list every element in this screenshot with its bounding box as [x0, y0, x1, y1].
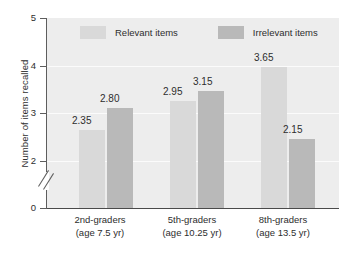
legend-item-relevant: Relevant items	[80, 26, 178, 39]
y-tick-label-5: 5	[20, 12, 36, 23]
y-tick-label-2: 2	[20, 155, 36, 166]
category-line2: (age 10.25 yr)	[147, 227, 237, 240]
gridline-4	[47, 66, 339, 67]
axis-break-marker	[38, 168, 56, 194]
value-label-2nd-irrelevant: 2.80	[100, 93, 119, 104]
value-label-2nd-relevant: 2.35	[72, 115, 91, 126]
y-tick-3	[40, 113, 47, 114]
x-axis-line	[46, 208, 339, 209]
value-label-5th-irrelevant: 3.15	[193, 76, 212, 87]
category-line2: (age 13.5 yr)	[239, 227, 327, 240]
y-tick-label-0: 0	[20, 202, 36, 213]
legend-swatch-relevant-icon	[80, 26, 106, 39]
legend-swatch-irrelevant-icon	[218, 26, 244, 39]
bar-2nd-graders-relevant	[79, 130, 105, 209]
legend: Relevant items Irrelevant items	[80, 26, 318, 39]
category-label-8th-graders: 8th-graders (age 13.5 yr)	[239, 214, 327, 239]
y-tick-5	[40, 18, 47, 19]
plot-area: 2.35 2.80 2.95 3.15 3.65 2.15	[47, 18, 339, 208]
bar-5th-graders-relevant	[170, 101, 196, 209]
value-label-5th-relevant: 2.95	[163, 86, 182, 97]
bar-2nd-graders-irrelevant	[107, 108, 133, 209]
bar-chart-figure: Number of items recalled 2.35 2.80 2.95 …	[0, 0, 347, 256]
y-tick-2	[40, 161, 47, 162]
category-line1: 8th-graders	[259, 214, 308, 225]
category-line1: 5th-graders	[168, 214, 217, 225]
category-label-2nd-graders: 2nd-graders (age 7.5 yr)	[57, 214, 143, 239]
y-tick-0	[40, 208, 47, 209]
value-label-8th-relevant: 3.65	[254, 52, 273, 63]
value-label-8th-irrelevant: 2.15	[283, 124, 302, 135]
category-label-5th-graders: 5th-graders (age 10.25 yr)	[147, 214, 237, 239]
category-line1: 2nd-graders	[74, 214, 125, 225]
legend-item-irrelevant: Irrelevant items	[218, 26, 318, 39]
legend-label-relevant: Relevant items	[115, 27, 178, 38]
bar-5th-graders-irrelevant	[198, 91, 224, 208]
category-line2: (age 7.5 yr)	[57, 227, 143, 240]
y-tick-label-3: 3	[20, 107, 36, 118]
y-tick-4	[40, 66, 47, 67]
bar-8th-graders-irrelevant	[289, 139, 315, 208]
legend-label-irrelevant: Irrelevant items	[253, 27, 318, 38]
bar-8th-graders-relevant	[261, 67, 287, 208]
y-tick-label-4: 4	[20, 60, 36, 71]
